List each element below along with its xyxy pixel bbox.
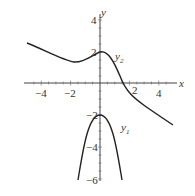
y2-label: y2 <box>114 50 124 65</box>
x-axis-label: x <box>178 77 184 89</box>
y-tick-label: 4 <box>91 14 97 26</box>
graph: −4 −2 2 4 4 2 −2 −4 −6 x y y2 y1 <box>0 0 195 196</box>
y-tick-label: −4 <box>86 141 98 153</box>
x-tick-label: 4 <box>156 87 162 99</box>
y1-label: y1 <box>120 121 129 136</box>
y-tick-label: −2 <box>86 109 98 121</box>
x-tick-label: −2 <box>64 87 76 99</box>
x-tick-label: −4 <box>35 87 47 99</box>
y-tick-label: 2 <box>91 46 97 58</box>
y-axis-label: y <box>100 6 106 18</box>
x-tick-label: 2 <box>132 84 138 96</box>
y-tick-label: −6 <box>86 174 98 186</box>
